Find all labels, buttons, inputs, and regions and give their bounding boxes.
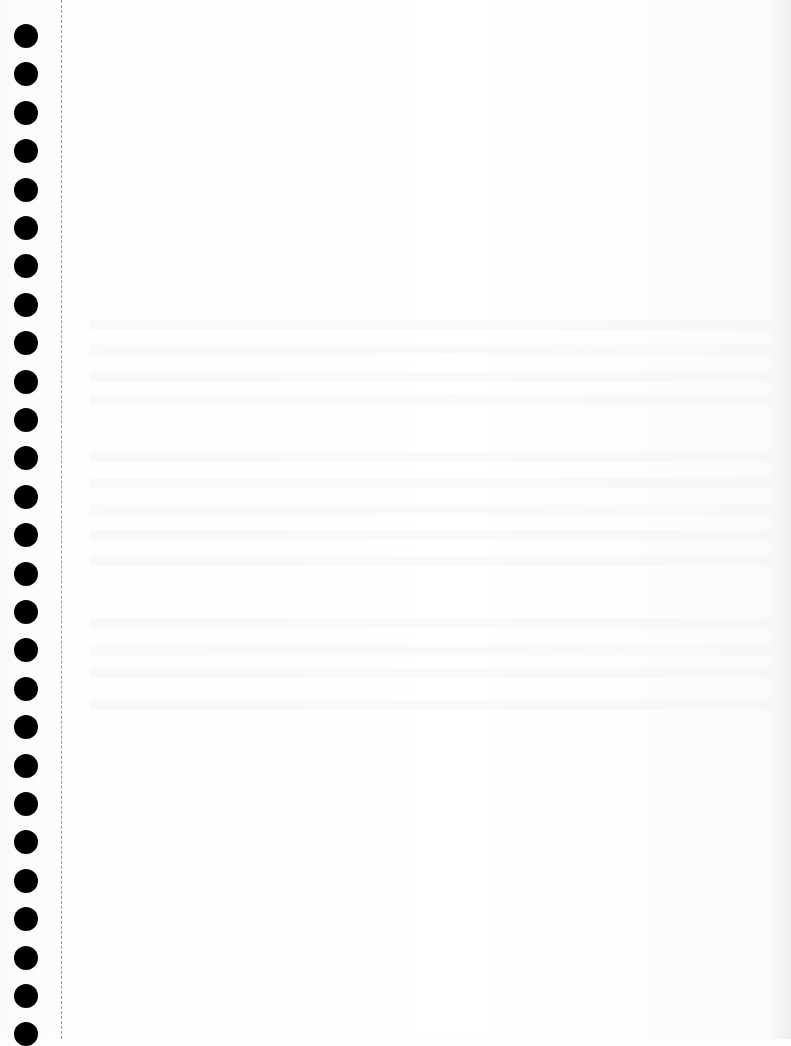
punch-hole: [14, 178, 38, 202]
bleed-through-row: [90, 530, 771, 540]
bleed-through-row: [90, 700, 771, 710]
punch-hole: [14, 946, 38, 970]
punch-hole: [14, 293, 38, 317]
bleed-through-row: [90, 395, 771, 405]
punch-hole: [14, 101, 38, 125]
punch-hole: [14, 408, 38, 432]
punch-hole: [14, 869, 38, 893]
punch-hole: [14, 139, 38, 163]
punch-hole: [14, 370, 38, 394]
punch-hole: [14, 24, 38, 48]
punch-hole: [14, 638, 38, 662]
bleed-through-row: [90, 645, 771, 655]
punch-hole: [14, 62, 38, 86]
punch-hole: [14, 830, 38, 854]
bleed-through-row: [90, 668, 771, 678]
punch-hole: [14, 216, 38, 240]
punch-hole: [14, 677, 38, 701]
punch-hole: [14, 523, 38, 547]
bleed-through-row: [90, 556, 771, 566]
punch-hole: [14, 485, 38, 509]
punch-hole: [14, 907, 38, 931]
bleed-through-row: [90, 320, 771, 330]
punch-hole: [14, 331, 38, 355]
bleed-through-row: [90, 618, 771, 628]
bleed-through-row: [90, 505, 771, 515]
punch-hole: [14, 446, 38, 470]
bleed-through-row: [90, 478, 771, 488]
punch-hole: [14, 715, 38, 739]
punch-hole: [14, 792, 38, 816]
punch-hole: [14, 254, 38, 278]
punch-hole: [14, 1022, 38, 1046]
bleed-through-row: [90, 372, 771, 382]
bleed-through-row: [90, 452, 771, 462]
punch-hole: [14, 562, 38, 586]
punch-hole: [14, 984, 38, 1008]
bleed-through-row: [90, 345, 771, 355]
perforation-line: [61, 0, 62, 1039]
punch-hole: [14, 600, 38, 624]
punch-hole: [14, 754, 38, 778]
